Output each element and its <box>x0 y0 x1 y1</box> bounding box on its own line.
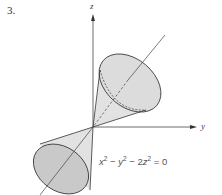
z-axis-label: z <box>90 1 94 11</box>
equation-label: x2 − y2 − 2z2 = 0 <box>99 156 167 167</box>
y-axis-label: y <box>201 121 205 131</box>
y-axis-arrow-icon <box>190 125 197 129</box>
z-axis-arrow-icon <box>91 14 95 21</box>
